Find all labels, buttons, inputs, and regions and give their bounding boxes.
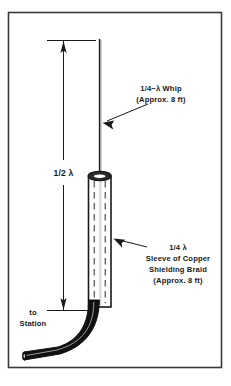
feed-label-line2: Station <box>20 319 47 328</box>
antenna-diagram: 1/2 λ 1/4−λ Whip (Approx. 8 ft) 1 <box>0 0 231 386</box>
whip-label-line1: 1/4−λ Whip <box>140 84 182 93</box>
dimension-label-half-lambda: 1/2 λ <box>53 168 73 178</box>
feed-label-line1: to <box>29 308 37 317</box>
sleeve-label-line3: Shielding Braid <box>149 265 207 274</box>
sleeve-top-cap-bore <box>94 174 106 179</box>
whip-label-line2: (Approx. 8 ft) <box>136 95 186 104</box>
sleeve-label-line1: 1/4 λ <box>169 243 187 252</box>
sleeve-label-line2: Sleeve of Copper <box>146 254 210 263</box>
figure-frame <box>9 13 222 368</box>
sleeve-shading <box>99 180 101 305</box>
coax-cable-end-bore <box>24 354 26 358</box>
sleeve-label-line4: (Approx. 8 ft) <box>153 276 203 285</box>
figure-root: 1/2 λ 1/4−λ Whip (Approx. 8 ft) 1 <box>0 0 231 386</box>
